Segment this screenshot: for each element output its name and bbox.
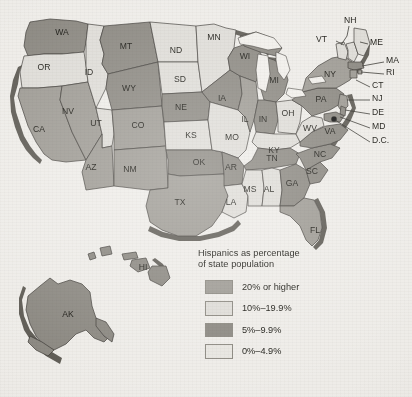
legend-swatch-1 bbox=[205, 301, 233, 316]
leader-line-MA bbox=[362, 62, 384, 66]
state-label-UT: UT bbox=[90, 118, 102, 128]
state-HI-group bbox=[88, 246, 170, 286]
state-label-IA: IA bbox=[218, 93, 226, 103]
legend-item-1: 10%–19.9% bbox=[196, 301, 346, 315]
state-HI-kauai bbox=[88, 252, 96, 260]
state-label-MI: MI bbox=[269, 75, 279, 85]
state-label-MO: MO bbox=[225, 132, 239, 142]
state-label-AR: AR bbox=[225, 162, 237, 172]
legend-title: Hispanics as percentage of state populat… bbox=[198, 248, 346, 271]
state-label-ND: ND bbox=[170, 45, 182, 55]
callout-label-DE: DE bbox=[372, 107, 384, 117]
callout-label-RI: RI bbox=[386, 67, 395, 77]
state-label-SC: SC bbox=[306, 166, 318, 176]
state-label-VA: VA bbox=[325, 126, 336, 136]
state-label-KS: KS bbox=[185, 130, 197, 140]
legend-label-0: 20% or higher bbox=[242, 282, 299, 292]
state-label-NV: NV bbox=[62, 106, 74, 116]
state-HI-oahu bbox=[100, 246, 112, 256]
state-label-SD: SD bbox=[174, 74, 186, 84]
leader-line-RI bbox=[361, 72, 384, 74]
state-label-LA: LA bbox=[226, 197, 237, 207]
legend-label-1: 10%–19.9% bbox=[242, 303, 292, 313]
legend-label-2: 5%–9.9% bbox=[242, 325, 281, 335]
map-legend: Hispanics as percentage of state populat… bbox=[196, 248, 346, 366]
legend-swatch-2 bbox=[205, 323, 233, 338]
state-label-ID: ID bbox=[85, 67, 94, 77]
state-CT bbox=[350, 70, 357, 78]
state-NM bbox=[114, 146, 168, 190]
callout-label-MD: MD bbox=[372, 121, 385, 131]
state-HI-bigisland bbox=[148, 266, 170, 286]
state-label-MN: MN bbox=[207, 32, 220, 42]
state-label-MT: MT bbox=[120, 41, 133, 51]
state-label-MS: MS bbox=[244, 184, 257, 194]
state-HI-molokai bbox=[122, 252, 138, 260]
state-label-AL: AL bbox=[264, 184, 275, 194]
state-label-GA: GA bbox=[286, 178, 299, 188]
state-label-NY: NY bbox=[324, 69, 336, 79]
callout-label-VT: VT bbox=[316, 34, 328, 44]
state-label-PA: PA bbox=[316, 94, 327, 104]
state-OR bbox=[20, 52, 88, 88]
state-WA bbox=[24, 19, 88, 56]
state-label-TN: TN bbox=[266, 153, 277, 163]
legend-rows: 20% or higher10%–19.9%5%–9.9%0%–4.9% bbox=[196, 280, 346, 359]
state-label-OR: OR bbox=[38, 62, 51, 72]
legend-title-line1: Hispanics as percentage bbox=[198, 248, 300, 258]
callout-label-ME: ME bbox=[370, 37, 383, 47]
state-label-FL: FL bbox=[310, 225, 320, 235]
state-MA bbox=[348, 62, 364, 70]
legend-swatch-3 bbox=[205, 344, 233, 359]
legend-swatch-0 bbox=[205, 280, 233, 295]
callout-label-NJ: NJ bbox=[372, 93, 383, 103]
state-label-WI: WI bbox=[240, 51, 251, 61]
callout-label-NH: NH bbox=[344, 15, 356, 25]
state-label-OH: OH bbox=[282, 108, 295, 118]
callout-label-MA: MA bbox=[386, 55, 399, 65]
state-label-WY: WY bbox=[122, 83, 136, 93]
state-label-NM: NM bbox=[123, 164, 136, 174]
state-label-WA: WA bbox=[55, 27, 69, 37]
callout-label-D.C.: D.C. bbox=[372, 135, 389, 145]
leader-line-CT bbox=[356, 80, 370, 87]
state-label-NE: NE bbox=[175, 102, 187, 112]
state-label-NC: NC bbox=[314, 149, 326, 159]
state-label-OK: OK bbox=[193, 157, 206, 167]
leader-line-DE bbox=[345, 110, 370, 114]
state-label-IN: IN bbox=[259, 114, 268, 124]
state-label-TX: TX bbox=[175, 197, 186, 207]
legend-label-3: 0%–4.9% bbox=[242, 346, 281, 356]
legend-item-0: 20% or higher bbox=[196, 280, 346, 294]
legend-item-3: 0%–4.9% bbox=[196, 344, 346, 358]
state-label-CO: CO bbox=[132, 120, 145, 130]
figure-choropleth-map: WAORCANVIDMTWYUTAZCONMNDSDNEKSOKTXMNIAMO… bbox=[0, 0, 412, 397]
legend-title-line2: of state population bbox=[198, 259, 274, 269]
state-label-AK: AK bbox=[62, 309, 74, 319]
state-label-AZ: AZ bbox=[86, 162, 97, 172]
state-label-HI: HI bbox=[139, 262, 148, 272]
state-label-WV: WV bbox=[303, 123, 317, 133]
callout-label-CT: CT bbox=[372, 80, 384, 90]
state-ND bbox=[150, 22, 198, 62]
legend-item-2: 5%–9.9% bbox=[196, 323, 346, 337]
state-label-CA: CA bbox=[33, 124, 45, 134]
state-label-IL: IL bbox=[241, 114, 248, 124]
